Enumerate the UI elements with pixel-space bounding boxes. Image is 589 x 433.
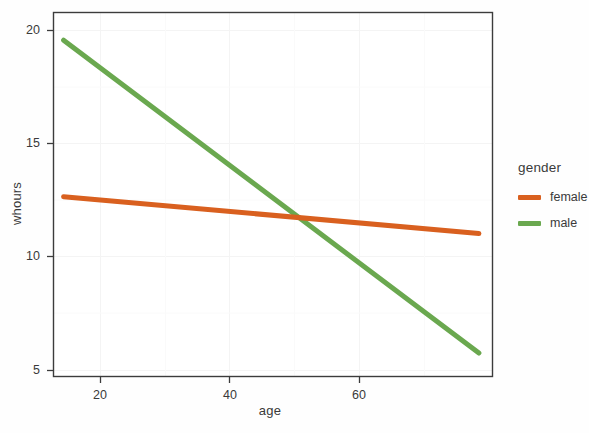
y-tick-label-15: 15 [10,136,40,150]
y-tick-label-5: 5 [10,363,40,377]
legend-entry-male[interactable]: male [518,212,589,234]
x-tick-marks [101,377,360,383]
legend-entry-female[interactable]: female [518,186,589,208]
legend-swatch-male-icon [518,221,541,226]
legend-swatch-female-icon [518,195,541,200]
plot-background [53,12,493,377]
x-tick-label-20: 20 [80,388,120,402]
y-tick-marks [47,31,53,371]
legend: gender female male [518,160,589,238]
y-axis-title: whours [9,174,24,234]
x-tick-label-60: 60 [339,388,379,402]
x-tick-label-40: 40 [210,388,250,402]
legend-label-female: female [550,190,588,204]
x-axis-title: age [0,403,540,418]
y-tick-label-20: 20 [10,23,40,37]
plot-panel [0,0,589,433]
chart-figure: 20 15 10 5 20 40 60 age whours gender fe… [0,0,589,433]
legend-title: gender [518,160,589,175]
legend-label-male: male [550,216,577,230]
y-tick-label-10: 10 [10,249,40,263]
